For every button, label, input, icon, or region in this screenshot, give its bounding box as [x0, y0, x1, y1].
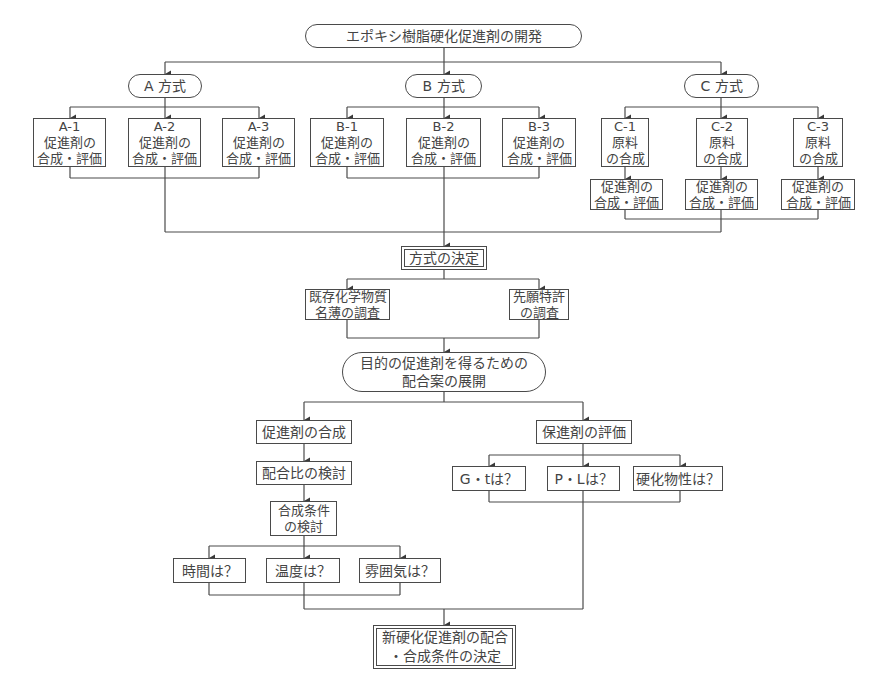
- promoter-evaluation-node: 保進剤の評価: [536, 420, 632, 444]
- question-temperature-node: 温度は？: [266, 558, 340, 583]
- method-b-item-1: B-1 促進剤の 合成・評価: [310, 118, 384, 167]
- formulation-development-node: 目的の促進剤を得るための 配合案の展開: [342, 352, 546, 392]
- prior-patent-survey-node: 先願特許 の調査: [509, 289, 569, 320]
- question-gel-time-node: G・tは？: [452, 466, 526, 491]
- method-c-item-2-eval: 促進剤の 合成・評価: [685, 179, 758, 210]
- question-atmosphere-node: 雰囲気は？: [359, 558, 441, 583]
- method-b-item-2: B-2 促進剤の 合成・評価: [406, 118, 481, 167]
- method-c-node: C 方式: [684, 74, 759, 98]
- question-pot-life-node: P・Lは？: [547, 466, 620, 491]
- method-c-item-3: C-3 原料 の合成: [793, 118, 843, 167]
- method-a-item-3: A-3 促進剤の 合成・評価: [222, 118, 295, 167]
- question-time-node: 時間は？: [173, 558, 246, 583]
- promoter-synthesis-node: 促進剤の合成: [256, 420, 352, 444]
- method-a-item-1: A-1 促進剤の 合成・評価: [33, 118, 106, 167]
- method-a-node: A 方式: [128, 74, 202, 98]
- method-decision-node: 方式の決定: [401, 246, 487, 270]
- method-b-node: B 方式: [405, 74, 482, 98]
- method-c-item-3-eval: 促進剤の 合成・評価: [781, 179, 855, 210]
- synthesis-conditions-node: 合成条件 の検討: [270, 501, 337, 536]
- final-decision-node: 新硬化促進剤の配合 ・合成条件の決定: [373, 625, 516, 669]
- method-c-item-1: C-1 原料 の合成: [601, 118, 649, 167]
- ratio-study-node: 配合比の検討: [256, 461, 352, 485]
- chemical-registry-survey-node: 既存化学物質 名薄の調査: [305, 289, 390, 320]
- title-node: エポキシ樹脂硬化促進剤の開発: [305, 24, 582, 48]
- method-c-item-2: C-2 原料 の合成: [696, 118, 748, 167]
- method-c-item-1-eval: 促進剤の 合成・評価: [590, 179, 663, 210]
- connector-lines: [0, 0, 880, 695]
- method-b-item-3: B-3 促進剤の 合成・評価: [502, 118, 576, 167]
- method-a-item-2: A-2 促進剤の 合成・評価: [128, 118, 201, 167]
- question-cured-properties-node: 硬化物性は？: [633, 466, 723, 491]
